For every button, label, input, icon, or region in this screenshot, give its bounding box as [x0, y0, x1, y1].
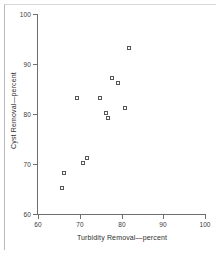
data-point: [127, 46, 131, 50]
y-tick-60: [33, 214, 37, 215]
x-tick-100: [205, 215, 206, 219]
y-tick-label-90: 90: [17, 61, 31, 68]
x-tick-label-60: 60: [30, 221, 46, 228]
y-tick-90: [33, 64, 37, 65]
data-point: [98, 96, 102, 100]
data-point: [60, 186, 64, 190]
data-point: [85, 156, 89, 160]
scatter-plot-figure: 60708090100 60708090100 Cyst Removal—per…: [0, 0, 218, 255]
x-tick-60: [38, 215, 39, 219]
x-tick-label-80: 80: [114, 221, 130, 228]
plot-data-area: [38, 14, 205, 214]
x-tick-90: [163, 215, 164, 219]
data-point: [104, 111, 108, 115]
data-point: [75, 96, 79, 100]
data-point: [62, 171, 66, 175]
y-tick-80: [33, 114, 37, 115]
x-tick-label-70: 70: [72, 221, 88, 228]
data-point: [116, 81, 120, 85]
y-tick-70: [33, 164, 37, 165]
x-axis-label: Turbidity Removal—percent: [38, 234, 206, 241]
data-point: [110, 76, 114, 80]
data-point: [81, 161, 85, 165]
y-tick-label-100: 100: [17, 11, 31, 18]
y-tick-label-60: 60: [17, 211, 31, 218]
x-tick-80: [122, 215, 123, 219]
y-tick-label-80: 80: [17, 111, 31, 118]
y-axis-label: Cyst Removal—percent: [10, 51, 17, 171]
data-point: [123, 106, 127, 110]
y-tick-label-70: 70: [17, 161, 31, 168]
data-point: [106, 116, 110, 120]
x-tick-label-90: 90: [155, 221, 171, 228]
x-tick-label-100: 100: [197, 221, 213, 228]
x-tick-70: [80, 215, 81, 219]
y-tick-100: [33, 14, 37, 15]
